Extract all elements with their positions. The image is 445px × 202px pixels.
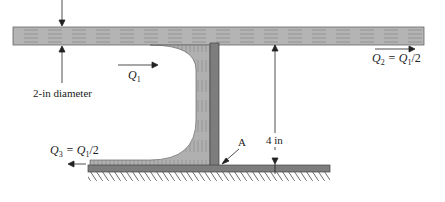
height-dimension [272,45,278,174]
q1-symbol: Q [128,68,137,82]
q3-tail: /2 [89,143,98,157]
q1-subscript: 1 [137,75,141,84]
diameter-label: 2-in diameter [33,87,92,99]
q2-tail: /2 [411,51,420,65]
incoming-jet [13,27,424,45]
point-a-leader [222,149,239,164]
q2-equals: = Q [385,51,408,65]
fluid-jet-diagram: 2-in diameter Q1 Q2 = Q1/2 Q3 = Q1/2 4 i… [0,0,445,202]
height-label: 4 in [266,133,283,147]
diagram-graphics [0,0,445,202]
ground-hatching [88,172,330,181]
q3-symbol: Q [50,143,59,157]
q3-arrow [68,161,86,167]
q2-symbol: Q [372,51,381,65]
deflected-flow [90,45,210,166]
point-a-label: A [238,136,246,148]
base-plate [88,165,330,172]
q2-label: Q2 = Q1/2 [372,51,421,67]
vertical-plate [210,43,219,166]
q1-label: Q1 [128,68,141,84]
q3-label: Q3 = Q1/2 [50,143,99,159]
q3-equals: = Q [63,143,86,157]
